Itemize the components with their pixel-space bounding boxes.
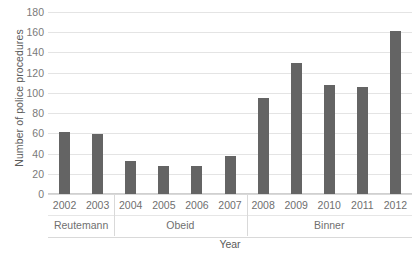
plot-area [48, 12, 412, 194]
bar [158, 166, 169, 194]
x-axis-title: Year [48, 238, 412, 250]
bar [258, 98, 269, 194]
y-axis-tick-labels: 020406080100120140160180 [18, 12, 44, 194]
category-group-separator [247, 195, 248, 236]
category-axis-year-label: 2007 [213, 195, 246, 215]
category-axis-years-row: 2002200320042005200620072008200920102011… [48, 195, 412, 216]
y-axis-tick-label: 20 [32, 168, 44, 180]
category-axis-year-label: 2005 [147, 195, 180, 215]
category-axis: 2002200320042005200620072008200920102011… [48, 194, 412, 238]
category-axis-year-label: 2011 [346, 195, 379, 215]
bar [291, 63, 302, 194]
category-axis-year-label: 2002 [48, 195, 81, 215]
category-axis-year-label: 2010 [313, 195, 346, 215]
y-axis-tick-label: 0 [38, 188, 44, 200]
bar [125, 161, 136, 194]
bar-chart: Number of police procedures 020406080100… [0, 0, 417, 258]
y-axis-tick-label: 160 [26, 26, 44, 38]
category-axis-group-label: Binner [247, 215, 412, 236]
y-axis-tick-label: 80 [32, 107, 44, 119]
y-axis-tick-label: 120 [26, 67, 44, 79]
bar [92, 134, 103, 194]
category-axis-year-label: 2006 [180, 195, 213, 215]
bar [357, 87, 368, 194]
category-axis-group-label: Reutemann [48, 215, 114, 236]
y-axis-tick-label: 140 [26, 46, 44, 58]
y-axis-tick-label: 60 [32, 127, 44, 139]
bars-layer [48, 12, 412, 194]
bar [225, 156, 236, 194]
y-axis-tick-label: 40 [32, 148, 44, 160]
bar [324, 85, 335, 194]
bar [59, 132, 70, 194]
category-axis-year-label: 2004 [114, 195, 147, 215]
category-axis-year-label: 2009 [280, 195, 313, 215]
category-axis-year-label: 2003 [81, 195, 114, 215]
y-axis-tick-label: 180 [26, 6, 44, 18]
category-group-separator [114, 195, 115, 236]
category-axis-year-label: 2008 [247, 195, 280, 215]
bar [390, 31, 401, 194]
category-axis-year-label: 2012 [379, 195, 412, 215]
y-axis-tick-label: 100 [26, 87, 44, 99]
category-axis-group-label: Obeid [114, 215, 246, 236]
category-axis-groups-row: ReutemannObeidBinner [48, 215, 412, 236]
bar [191, 166, 202, 194]
